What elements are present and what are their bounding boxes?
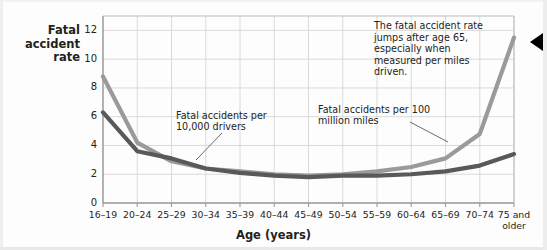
y-tick-label-2: 2	[75, 168, 97, 179]
y-tick-label-4: 4	[75, 139, 97, 150]
y-tick-label-8: 8	[75, 81, 97, 92]
y-axis-title-line-1: Fatal	[18, 24, 80, 38]
left-triangle-marker[interactable]	[530, 33, 543, 51]
y-tick-label-10: 10	[75, 53, 97, 64]
x-axis-title: Age (years)	[0, 228, 547, 242]
y-axis-title-line-2: accident	[18, 38, 80, 52]
callout-annotation: The fatal accident rate jumps after age …	[374, 20, 496, 78]
y-tick-label-6: 6	[75, 110, 97, 121]
series-label-miles: Fatal accidents per 100 million miles	[318, 104, 442, 127]
series-label-drivers: Fatal accidents per 10,000 drivers	[176, 110, 286, 133]
y-axis-title-line-3: rate	[18, 51, 80, 65]
y-tick-label-12: 12	[75, 24, 97, 35]
y-axis-title: Fatal accident rate	[18, 24, 80, 65]
figure-canvas: Fatal accident rate 024681012 16–1920–24…	[0, 0, 547, 250]
y-tick-label-0: 0	[75, 197, 97, 208]
